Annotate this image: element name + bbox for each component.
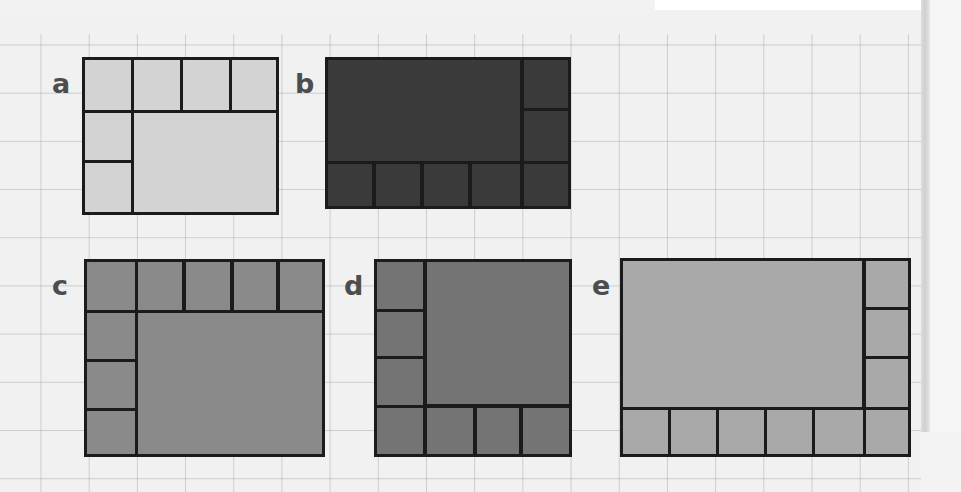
page-edge-bottom — [921, 432, 961, 492]
figure-label-e: e — [592, 272, 610, 299]
figure-label-d: d — [344, 272, 363, 299]
figure-e-outline — [620, 258, 911, 457]
figure-b-outline — [325, 57, 571, 209]
figure-d-outline — [374, 259, 572, 457]
figure-a-outline — [82, 57, 279, 215]
page-gutter — [930, 0, 961, 492]
figure-c-outline — [84, 259, 325, 457]
figure-label-c: c — [52, 272, 68, 299]
page-edge-shadow — [921, 0, 930, 492]
figure-label-b: b — [295, 70, 314, 97]
paper-top-margin — [655, 0, 961, 10]
figure-label-a: a — [52, 70, 70, 97]
scanned-page: a b c — [0, 0, 961, 492]
